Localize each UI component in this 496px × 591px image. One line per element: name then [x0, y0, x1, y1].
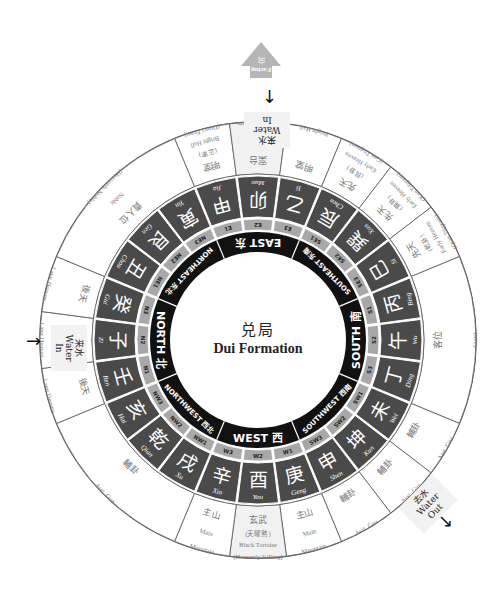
direction-label-south: SOUTH 南	[349, 311, 363, 369]
arrow-down-icon: ↓	[262, 86, 277, 107]
outer-sector-label: 案台	[249, 155, 267, 166]
arrow-down-right-icon: ↘	[438, 510, 453, 531]
water-in-top-label: 来水 Water In	[244, 112, 290, 148]
mountain-char: 午	[387, 331, 409, 350]
sub-sector-label: W2	[253, 453, 263, 459]
svg-text:向: 向	[258, 56, 265, 65]
outer-sector-label: 玄武	[249, 514, 267, 525]
outer-sector-label: (天曜煞)	[245, 529, 270, 538]
water-in-top-zh: 来水	[248, 135, 286, 145]
mountain-pinyin: Zi	[97, 337, 105, 343]
arrow-right-icon: →	[26, 330, 41, 351]
mountain-char: 子	[107, 331, 129, 350]
formation-title-en: Dui Formation	[178, 341, 338, 357]
water-in-top-en: Water In	[248, 115, 286, 135]
mountain-pinyin: Mao	[251, 179, 265, 187]
mountain-pinyin: Wu	[411, 335, 419, 344]
formation-title: 兑局 Dui Formation	[178, 318, 338, 357]
sub-sector-label: E2	[254, 222, 262, 228]
mountain-pinyin: You	[253, 493, 264, 501]
sub-sector-label: S2	[371, 336, 377, 344]
direction-label-east: EAST 东	[235, 236, 281, 250]
water-in-left-label: 来水 Water In	[51, 325, 87, 371]
mountain-char: 酉	[249, 469, 268, 491]
svg-text:Facing: Facing	[250, 66, 271, 74]
formation-title-zh: 兑局	[178, 318, 338, 339]
outer-sector-label: Guest	[471, 332, 478, 347]
sub-sector-label: N2	[140, 336, 146, 345]
outer-sector-label: (Heavenly Killing)	[233, 553, 282, 561]
mountain-char: 卯	[249, 189, 268, 211]
water-in-left-zh: 来水	[74, 329, 84, 367]
direction-label-north: NORTH 北	[154, 311, 168, 369]
outer-sector-label: Black Tortoise	[239, 541, 277, 548]
facing-arrow-icon: 向 Facing	[241, 42, 281, 78]
water-in-left-en: Water In	[54, 329, 74, 367]
direction-label-west: WEST 西	[233, 432, 283, 445]
outer-sector-label: 客位	[432, 331, 443, 349]
